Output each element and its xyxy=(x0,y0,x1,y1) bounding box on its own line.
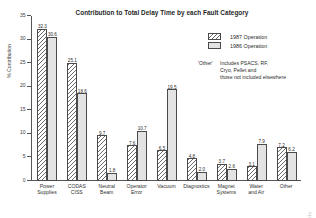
x-axis-label-line: Supplies xyxy=(30,189,64,195)
bar: 10.7 xyxy=(137,131,147,181)
bar-value-label: 4.8 xyxy=(189,154,195,159)
annotation-term: 'Other' xyxy=(198,60,213,67)
y-tick: 10 xyxy=(27,133,31,134)
x-axis-label-line: Diagnostics xyxy=(179,183,213,189)
x-axis-labels: PowerSuppliesCODASCISSNeutralBeamOperato… xyxy=(32,183,301,211)
legend-swatch-1986 xyxy=(208,42,221,49)
bar-value-label: 7.9 xyxy=(258,139,264,144)
x-axis-label: OperatorError xyxy=(120,183,154,196)
y-axis-title: % Contribution xyxy=(6,44,12,78)
bar: 9.7 xyxy=(97,135,107,181)
y-tick-label: 20 xyxy=(20,82,26,88)
bar: 3.1 xyxy=(247,166,257,181)
x-axis-label-line: Error xyxy=(120,189,154,195)
bar: 7.9 xyxy=(257,144,267,181)
chart-figure: Contribution to Total Delay Time by each… xyxy=(0,0,316,218)
x-axis-label-line: CISS xyxy=(60,189,94,195)
x-axis-label-line: Vacuum xyxy=(150,183,184,189)
bar-group: 7.610.7 xyxy=(127,16,147,181)
bar: 6.5 xyxy=(157,150,167,181)
bar-value-label: 2.6 xyxy=(229,164,235,169)
y-tick-label: 30 xyxy=(20,35,26,41)
y-tick: 5 xyxy=(27,156,31,157)
bar: 2.6 xyxy=(227,169,237,181)
x-axis-label: Diagnostics xyxy=(179,183,213,189)
x-axis-label: Vacuum xyxy=(150,183,184,189)
bar-value-label: 18.6 xyxy=(78,89,87,94)
x-axis-label: Waterand Air xyxy=(239,183,273,196)
bar-value-label: 3.1 xyxy=(248,162,254,167)
figure-reference-code: JG88.119/1c xyxy=(308,212,312,218)
bar: 32.3 xyxy=(37,29,47,181)
bar: 3.7 xyxy=(217,164,227,181)
y-tick-label: 25 xyxy=(20,59,26,65)
y-tick: 20 xyxy=(27,86,31,87)
y-tick-label: 0 xyxy=(23,177,26,183)
bar: 18.6 xyxy=(77,93,87,181)
x-axis-label-line: Other xyxy=(269,183,303,189)
y-tick: 0 xyxy=(27,180,31,181)
bar-value-label: 32.3 xyxy=(38,24,47,29)
bar-value-label: 7.6 xyxy=(129,141,135,146)
bar: 1.8 xyxy=(107,173,117,181)
bar-group: 4.82.0 xyxy=(187,16,207,181)
bar: 19.5 xyxy=(167,89,177,181)
annotation-body: Includes PSACS, RF, Cryo, Pellet and tho… xyxy=(220,60,316,81)
y-tick: 25 xyxy=(27,62,31,63)
x-axis-label: PowerSupplies xyxy=(30,183,64,196)
legend-item-1986: 1986 Operation xyxy=(208,41,312,50)
bar: 6.2 xyxy=(287,152,297,181)
y-tick-label: 10 xyxy=(20,129,26,135)
bar-value-label: 7.2 xyxy=(278,143,284,148)
x-axis-label-line: Systems xyxy=(209,189,243,195)
bar-value-label: 3.7 xyxy=(219,159,225,164)
bar: 7.6 xyxy=(127,145,137,181)
other-annotation: 'Other' Includes PSACS, RF, Cryo, Pellet… xyxy=(198,60,316,81)
annotation-line-2: Cryo, Pellet and xyxy=(220,67,316,74)
legend-label-1986: 1986 Operation xyxy=(230,43,267,49)
bar-value-label: 9.7 xyxy=(99,131,105,136)
bar-value-label: 6.5 xyxy=(159,146,165,151)
annotation-line-1: Includes PSACS, RF, xyxy=(220,60,316,67)
legend-swatch-1987 xyxy=(208,33,221,40)
bar-value-label: 6.2 xyxy=(288,147,294,152)
bar: 30.6 xyxy=(47,37,57,181)
bar-value-label: 30.6 xyxy=(48,32,57,37)
x-axis-label: MagnetSystems xyxy=(209,183,243,196)
y-tick: 15 xyxy=(27,109,31,110)
y-tick-label: 35 xyxy=(20,12,26,18)
bar: 4.8 xyxy=(187,158,197,181)
y-tick-label: 15 xyxy=(20,106,26,112)
annotation-line-3: those not included elsewhere xyxy=(220,74,316,81)
bar-value-label: 25.1 xyxy=(68,58,77,63)
bar-group: 9.71.8 xyxy=(97,16,117,181)
y-tick: 35 xyxy=(27,15,31,16)
bar: 7.2 xyxy=(277,147,287,181)
y-tick: 30 xyxy=(27,39,31,40)
x-axis-label-line: Beam xyxy=(90,189,124,195)
x-axis-label-line: and Air xyxy=(239,189,273,195)
x-axis-label: NeutralBeam xyxy=(90,183,124,196)
legend: 1987 Operation 1986 Operation xyxy=(208,32,312,50)
y-tick-label: 5 xyxy=(23,153,26,159)
bar-group: 6.519.5 xyxy=(157,16,177,181)
bar-value-label: 2.0 xyxy=(199,167,205,172)
bar: 25.1 xyxy=(67,63,77,181)
bar-value-label: 19.5 xyxy=(168,85,177,90)
bar-group: 32.330.6 xyxy=(37,16,57,181)
chart-title: Contribution to Total Delay Time by each… xyxy=(62,9,262,16)
bar-group: 25.118.6 xyxy=(67,16,87,181)
x-axis-label: Other xyxy=(269,183,303,189)
x-axis-label: CODASCISS xyxy=(60,183,94,196)
bar-value-label: 1.8 xyxy=(109,168,115,173)
legend-item-1987: 1987 Operation xyxy=(208,32,312,41)
bar: 2.0 xyxy=(197,172,207,181)
bar-value-label: 10.7 xyxy=(138,126,147,131)
legend-label-1987: 1987 Operation xyxy=(230,34,267,40)
